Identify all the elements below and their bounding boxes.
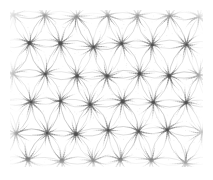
star-lattice-figure: Star Lattice Pattern Hand-drawn repeatin… [0,0,213,180]
pattern-canvas [0,0,213,180]
